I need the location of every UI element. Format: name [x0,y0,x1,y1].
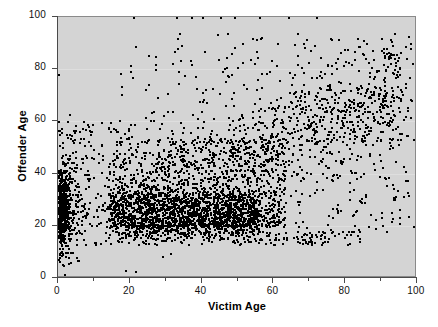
data-point [395,196,397,198]
data-point [118,234,120,236]
data-point [407,107,409,109]
data-point [202,194,204,196]
data-point [329,86,331,88]
data-point [163,225,165,227]
data-point [118,186,120,188]
data-point [361,198,363,200]
data-point [238,163,240,165]
data-point [254,215,256,217]
data-point [62,161,64,163]
data-point [274,204,276,206]
data-point [256,39,258,41]
data-point [74,167,76,169]
data-point [85,155,87,157]
data-point [65,178,67,180]
data-point [207,162,209,164]
data-point [265,159,267,161]
data-point [243,137,245,139]
data-point [345,111,347,113]
data-point [72,178,74,180]
data-point [177,188,179,190]
data-point [215,184,217,186]
data-point [254,172,256,174]
data-point [171,203,173,205]
data-point [185,216,187,218]
data-point [127,229,129,231]
data-point [59,211,61,213]
data-point [245,208,247,210]
data-point [297,130,299,132]
data-point [278,208,280,210]
data-point [116,205,118,207]
x-tick-label-40: 40 [181,285,221,296]
data-point [301,236,303,238]
data-point [173,225,175,227]
data-point [124,217,126,219]
data-point [268,202,270,204]
data-point [73,170,75,172]
data-point [242,181,244,183]
data-point [363,40,365,42]
data-point [170,190,172,192]
data-point [368,83,370,85]
data-point [302,107,304,109]
data-point [142,223,144,225]
data-point [61,128,63,130]
data-point [222,71,224,73]
data-point [187,228,189,230]
data-point [155,64,157,66]
data-point [314,99,316,101]
x-tick-minor-50 [237,278,238,281]
data-point [162,192,164,194]
data-point [187,233,189,235]
data-point [285,161,287,163]
data-point [181,45,183,47]
data-point [136,211,138,213]
data-point [155,69,157,71]
data-point [164,187,166,189]
data-point [98,153,100,155]
data-point [158,200,160,202]
data-point [189,209,191,211]
data-point [128,157,130,159]
data-point [275,158,277,160]
data-point [272,210,274,212]
data-point [131,136,133,138]
data-point [84,230,86,232]
data-point [193,144,195,146]
data-point [213,164,215,166]
data-point [329,151,331,153]
data-point [237,144,239,146]
data-point [250,205,252,207]
data-point [238,165,240,167]
data-point [86,214,88,216]
data-point [336,174,338,176]
data-point [74,132,76,134]
data-point [73,162,75,164]
data-point [300,95,302,97]
data-point [118,212,120,214]
data-point [358,70,360,72]
data-point [258,204,260,206]
data-point [158,154,160,156]
data-point [61,172,63,174]
data-point [317,92,319,94]
data-point [174,51,176,53]
data-point [233,134,235,136]
data-point [128,130,130,132]
data-point [242,117,244,119]
x-tick-20 [129,278,130,283]
data-point [221,190,223,192]
data-point [197,118,199,120]
data-point [72,222,74,224]
data-point [304,96,306,98]
data-point [219,167,221,169]
data-point [350,234,352,236]
data-point [229,124,231,126]
data-point [81,158,83,160]
data-point [199,101,201,103]
data-point [382,107,384,109]
data-point [108,237,110,239]
data-point [284,107,286,109]
data-point [256,184,258,186]
